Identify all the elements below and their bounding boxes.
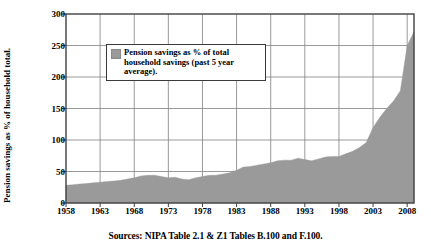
x-tick-label-1983: 1983: [228, 206, 246, 216]
x-tick-label-1958: 1958: [57, 206, 75, 216]
legend-swatch-icon: [111, 49, 121, 59]
x-tick-label-1988: 1988: [262, 206, 280, 216]
source-caption: Sources: NIPA Table 2.1 & Z1 Tables B.10…: [0, 231, 431, 241]
y-axis-title-text: Pension savings as % of household total.: [2, 48, 12, 203]
x-tick-label-1973: 1973: [159, 206, 177, 216]
chart-legend: Pension savings as % of total household …: [106, 44, 266, 81]
y-axis-title: Pension savings as % of household total.: [0, 0, 36, 251]
x-tick-label-1963: 1963: [91, 206, 109, 216]
chart-figure: 050100150200250300 195819631968197319781…: [0, 0, 431, 251]
y-tick-label-250: 250: [35, 41, 65, 51]
y-tick-label-200: 200: [35, 72, 65, 82]
legend-label: Pension savings as % of total household …: [124, 48, 261, 77]
y-tick-label-50: 50: [35, 167, 65, 177]
x-tick-label-1978: 1978: [193, 206, 211, 216]
x-tick-label-1998: 1998: [330, 206, 348, 216]
y-tick-label-100: 100: [35, 135, 65, 145]
x-tick-label-2008: 2008: [398, 206, 416, 216]
y-tick-label-150: 150: [35, 104, 65, 114]
x-tick-label-1993: 1993: [296, 206, 314, 216]
x-tick-label-1968: 1968: [125, 206, 143, 216]
y-tick-label-300: 300: [35, 9, 65, 19]
x-tick-label-2003: 2003: [364, 206, 382, 216]
